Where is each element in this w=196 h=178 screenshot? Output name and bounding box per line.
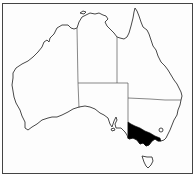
northern-island	[80, 11, 86, 14]
mainland-coastline	[12, 8, 182, 146]
victoria-region	[128, 122, 161, 146]
coastal-lake	[159, 128, 163, 132]
border-wa-nt-sa	[77, 28, 79, 108]
border-qld-nsw	[128, 98, 181, 100]
australia-map	[0, 0, 196, 178]
kangaroo-island	[111, 128, 115, 131]
tasmania	[142, 156, 153, 168]
